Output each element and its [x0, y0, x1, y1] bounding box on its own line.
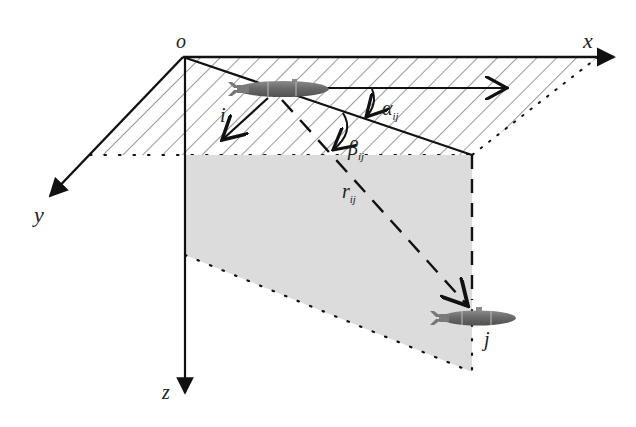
origin-label: o [176, 30, 186, 52]
vehicle-j-label: j [481, 328, 490, 351]
x-axis-label: x [582, 28, 593, 53]
y-axis-label: y [32, 202, 44, 227]
vehicle-i-label: i [220, 104, 226, 126]
horizontal-plane [90, 57, 598, 155]
z-axis-label: z [161, 381, 170, 403]
coordinate-diagram: o x y z i j αij βij rij [0, 0, 636, 427]
